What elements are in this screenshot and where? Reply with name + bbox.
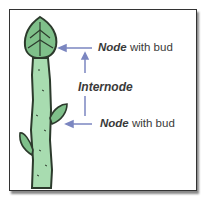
arrowhead-icon — [59, 45, 66, 51]
plant-stem-illustration — [0, 0, 206, 202]
arrowhead-icon — [66, 121, 73, 127]
stem — [31, 58, 52, 188]
terminal-bud — [25, 17, 56, 58]
label-node-bottom: Node with bud — [100, 117, 175, 129]
arrowhead-icon — [82, 53, 88, 59]
label-internode: Internode — [78, 80, 133, 94]
label-node-top: Node with bud — [98, 41, 173, 53]
lateral-bud-right — [50, 104, 67, 124]
